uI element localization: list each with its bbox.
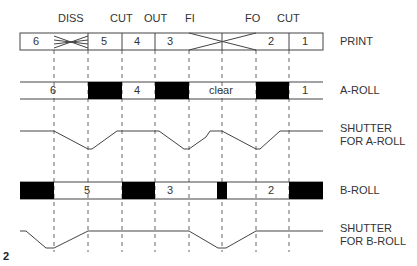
print-shot-3: 3 [167,35,173,47]
event-label-out: OUT [144,12,167,24]
row-label-shutter-b: SHUTTER FOR B-ROLL [340,222,406,248]
a-roll-shot-1: 1 [302,84,308,96]
b-roll-opaque-block [289,182,323,199]
a-roll-opaque-block [256,82,289,99]
b-roll-shot-2: 2 [268,184,274,196]
event-label-diss: DISS [58,12,84,24]
row-label-b-roll: B-ROLL [340,184,380,197]
print-shot-2: 2 [268,35,274,47]
row-label-print: PRINT [340,35,373,48]
b-roll-opaque-block [122,182,155,199]
a-roll-clear: clear [209,84,233,96]
event-label-cut: CUT [110,12,133,24]
b-roll-shot-3: 3 [167,184,173,196]
row-label-a-roll: A-ROLL [340,84,380,97]
a-roll-shot-4: 4 [134,84,140,96]
event-label-cut-2: CUT [277,12,300,24]
ab-roll-diagram: DISS CUT OUT FI FO CUT 6 5 4 3 2 1 6 4 c… [0,0,417,266]
event-label-fi: FI [185,12,195,24]
print-shot-4: 4 [134,35,140,47]
dashed-guides [54,50,289,252]
print-shot-1: 1 [302,35,308,47]
a-roll-shot-6: 6 [50,84,56,96]
b-roll-opaque-block [20,182,54,199]
b-roll-shot-5: 5 [84,184,90,196]
row-label-shutter-a: SHUTTER FOR A-ROLL [340,122,405,148]
a-roll-opaque-block [155,82,189,99]
a-roll-opaque-block [88,82,122,99]
shutter-b-waveform [20,231,323,248]
shutter-a-waveform [20,131,323,149]
event-label-fo: FO [245,12,260,24]
b-roll-opaque-block [217,182,227,199]
figure-number: 2 [3,250,9,262]
a-roll-strip [20,82,323,99]
print-shot-5: 5 [101,35,107,47]
print-shot-6: 6 [33,35,39,47]
